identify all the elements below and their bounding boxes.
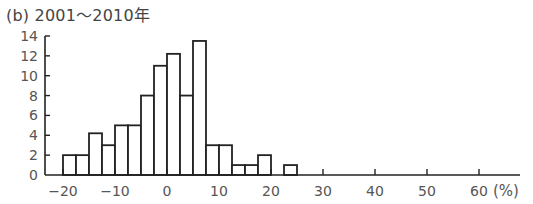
- histogram-bar: [102, 145, 115, 175]
- y-tick-label: 12: [20, 48, 38, 64]
- histogram-bar: [206, 145, 219, 175]
- histogram-bar: [128, 125, 141, 175]
- histogram-bar: [180, 96, 193, 175]
- histogram-bar: [76, 155, 89, 175]
- y-tick-label: 0: [29, 167, 38, 183]
- x-tick-label: −20: [48, 183, 78, 199]
- y-tick-label: 14: [20, 28, 38, 44]
- histogram-bar: [193, 41, 206, 175]
- histogram-bar: [245, 165, 258, 175]
- x-tick-label: −10: [100, 183, 130, 199]
- y-tick-label: 2: [29, 147, 38, 163]
- histogram-bar: [115, 125, 128, 175]
- x-unit-label: (%): [493, 182, 519, 200]
- histogram-bars: [63, 41, 297, 175]
- histogram-bar: [232, 165, 245, 175]
- x-tick-label: 60: [470, 183, 488, 199]
- x-tick-label: 20: [262, 183, 280, 199]
- histogram-bar: [167, 54, 180, 175]
- y-tick-label: 6: [29, 107, 38, 123]
- x-tick-label: 0: [163, 183, 172, 199]
- histogram-bar: [63, 155, 76, 175]
- x-tick-label: 10: [210, 183, 228, 199]
- histogram-bar: [219, 145, 232, 175]
- y-tick-label: 8: [29, 88, 38, 104]
- histogram-bar: [258, 155, 271, 175]
- histogram-bar: [154, 66, 167, 175]
- x-tick-label: 50: [418, 183, 436, 199]
- histogram-bar: [284, 165, 297, 175]
- y-tick-label: 10: [20, 68, 38, 84]
- x-tick-label: 40: [366, 183, 384, 199]
- x-tick-label: 30: [314, 183, 332, 199]
- histogram-bar: [89, 133, 102, 175]
- histogram-chart: 02468101214 −20−100102030405060(%): [0, 0, 533, 204]
- histogram-bar: [141, 96, 154, 175]
- y-tick-label: 4: [29, 127, 38, 143]
